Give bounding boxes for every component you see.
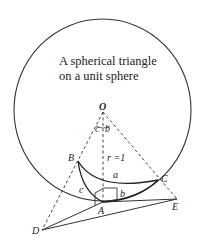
title-line-2: on a unit sphere	[59, 69, 139, 83]
label-angle-c: c	[95, 123, 100, 134]
title-line-1: A spherical triangle	[59, 54, 157, 68]
label-side-c: c	[79, 184, 84, 195]
label-side-b: b	[120, 188, 125, 199]
label-B: B	[68, 152, 74, 163]
label-E: E	[171, 201, 178, 212]
label-A: A	[97, 205, 105, 216]
label-radius: r =1	[107, 152, 125, 163]
label-D: D	[31, 225, 40, 236]
label-angle-b: b	[105, 123, 110, 134]
arc-side-a	[78, 161, 158, 183]
label-side-a: a	[113, 169, 118, 180]
line-DE	[42, 199, 177, 230]
label-O: O	[99, 101, 106, 112]
line-AD	[42, 202, 103, 230]
spherical-triangle-diagram: A spherical triangle on a unit sphere O …	[0, 0, 199, 247]
line-OD	[42, 112, 103, 230]
label-C: C	[161, 173, 168, 184]
